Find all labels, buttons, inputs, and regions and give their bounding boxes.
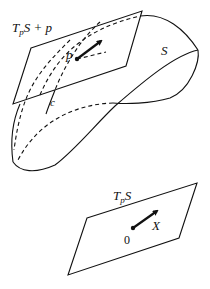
surface-s	[12, 15, 198, 170]
curve-c-label: c	[50, 96, 55, 108]
surface-s-label: S	[161, 43, 168, 58]
upper-plane-label: TpS + p	[12, 20, 53, 37]
origin-dot	[131, 226, 135, 230]
lower-plane-label: TpS	[113, 188, 132, 205]
point-p-dot	[75, 57, 79, 61]
tangent-plane-diagram: TpS + p p S c TpS 0 X	[0, 0, 210, 289]
vector-x-label: X	[151, 218, 161, 233]
point-p-label: p	[65, 47, 73, 62]
upper-tangent-vector	[75, 41, 106, 61]
origin-label: 0	[124, 233, 130, 247]
